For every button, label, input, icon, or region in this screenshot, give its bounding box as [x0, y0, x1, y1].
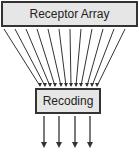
input-arrowheads	[38, 83, 99, 87]
output-arrowheads	[41, 142, 93, 148]
receptor-array-box: Receptor Array	[1, 1, 138, 27]
recoding-label: Recoding	[43, 94, 94, 108]
receptor-array-label: Receptor Array	[29, 7, 109, 21]
recoding-box: Recoding	[35, 88, 101, 114]
output-arrows	[44, 116, 90, 143]
input-lines	[4, 29, 125, 86]
